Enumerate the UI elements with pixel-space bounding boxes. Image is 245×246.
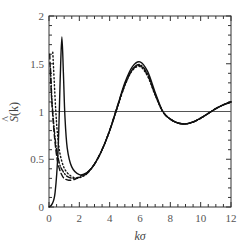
x-tick-label: 10 bbox=[195, 212, 207, 224]
series-group bbox=[49, 37, 231, 207]
y-axis-label: S(k) ^ bbox=[0, 102, 21, 122]
x-tick-label: 0 bbox=[46, 212, 52, 224]
x-tick-label: 4 bbox=[107, 212, 113, 224]
y-tick-label: 1.5 bbox=[30, 58, 44, 70]
x-tick-label: 2 bbox=[77, 212, 83, 224]
y-tick-label: 0.5 bbox=[30, 153, 44, 165]
series-dash-dot-line bbox=[51, 65, 231, 179]
chart: 02468101200.511.52 kσ S(k) ^ bbox=[0, 0, 245, 246]
y-tick-label: 0 bbox=[39, 201, 45, 213]
y-axis-label-arg: (k) bbox=[7, 102, 21, 116]
x-tick-label: 12 bbox=[226, 212, 237, 224]
x-tick-label: 8 bbox=[168, 212, 174, 224]
x-axis-label: kσ bbox=[134, 229, 146, 243]
x-tick-label: 6 bbox=[137, 212, 143, 224]
series-solid-line bbox=[49, 37, 231, 207]
y-tick-label: 2 bbox=[39, 10, 45, 22]
series-dashed-line bbox=[50, 54, 231, 180]
y-tick-label: 1 bbox=[39, 106, 45, 118]
